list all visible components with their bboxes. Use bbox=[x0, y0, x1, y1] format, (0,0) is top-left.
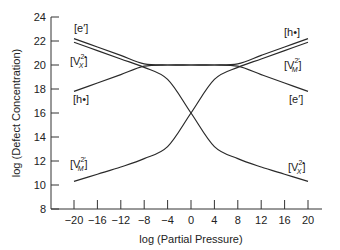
x-tick-label: −20 bbox=[65, 214, 84, 226]
series-label: [V2•X] bbox=[70, 53, 87, 69]
series-label: [h•] bbox=[73, 93, 89, 105]
x-axis-label: log (Partial Pressure) bbox=[139, 233, 242, 245]
series-label: [e′] bbox=[74, 22, 88, 34]
y-tick-label: 8 bbox=[40, 203, 46, 215]
series-lines bbox=[74, 39, 308, 182]
y-tick-label: 12 bbox=[34, 155, 46, 167]
series-line bbox=[74, 39, 308, 92]
x-tick-label: 4 bbox=[211, 214, 217, 226]
series-line bbox=[74, 42, 308, 181]
series-label: [V2•X] bbox=[288, 159, 305, 175]
x-tick-label: −16 bbox=[88, 214, 107, 226]
y-tick-label: 20 bbox=[34, 59, 46, 71]
y-tick-label: 10 bbox=[34, 179, 46, 191]
y-tick-label: 14 bbox=[34, 131, 46, 143]
y-tick-label: 22 bbox=[34, 35, 46, 47]
series-label: [h•] bbox=[284, 26, 300, 38]
series-label: [V2′M] bbox=[70, 156, 88, 172]
series-label: [V2′M] bbox=[284, 57, 302, 73]
x-tick-label: 20 bbox=[302, 214, 314, 226]
y-tick-label: 18 bbox=[34, 83, 46, 95]
series-labels: [e′][V2•X][h•][V2′M][h•][V2′M][e′][V2•X] bbox=[70, 22, 305, 175]
series-line bbox=[74, 42, 308, 181]
y-axis-label: log (Defect Concentration) bbox=[10, 49, 22, 177]
x-tick-label: 12 bbox=[255, 214, 267, 226]
x-tick-label: 0 bbox=[188, 214, 194, 226]
series-label: [e′] bbox=[289, 93, 303, 105]
x-tick-label: 16 bbox=[278, 214, 290, 226]
y-tick-label: 24 bbox=[34, 11, 46, 23]
defect-concentration-chart: 81012141618202224−20−16−12−8−4048121620 … bbox=[0, 0, 340, 250]
x-tick-label: −8 bbox=[138, 214, 151, 226]
x-tick-label: −4 bbox=[161, 214, 174, 226]
y-tick-label: 16 bbox=[34, 107, 46, 119]
x-tick-label: −12 bbox=[111, 214, 130, 226]
x-tick-label: 8 bbox=[235, 214, 241, 226]
